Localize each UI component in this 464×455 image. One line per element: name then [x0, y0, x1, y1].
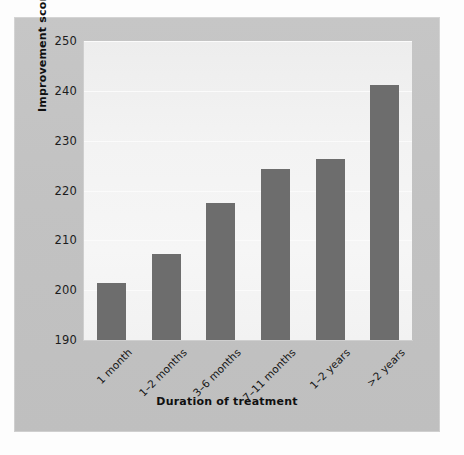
- x-axis-tick-label: >2 years: [364, 346, 407, 389]
- gridline: [84, 191, 412, 192]
- x-axis-title: Duration of treatment: [14, 395, 440, 408]
- gridline: [84, 91, 412, 92]
- gridline: [84, 41, 412, 42]
- bar: [261, 169, 290, 340]
- y-axis-tick-label: 200: [54, 283, 77, 297]
- bar: [316, 159, 345, 340]
- gridline: [84, 141, 412, 142]
- x-axis-tick-label: 3–6 months: [190, 346, 243, 399]
- chart-card: Improvement score 190200210220230240250 …: [14, 17, 440, 432]
- y-axis-tick-label: 210: [54, 233, 77, 247]
- bar: [370, 85, 399, 340]
- bar: [206, 203, 235, 340]
- x-axis-line: [83, 340, 413, 341]
- x-axis-tick-label: 1 month: [94, 346, 134, 386]
- gridline: [84, 240, 412, 241]
- chart-page: Improvement score 190200210220230240250 …: [0, 0, 464, 455]
- y-axis-tick-label: 190: [54, 333, 77, 347]
- x-axis-tick-label: 1–2 years: [307, 346, 352, 391]
- bar: [97, 283, 126, 340]
- bar: [152, 254, 181, 340]
- y-axis-tick-label: 230: [54, 134, 77, 148]
- x-axis-tick-label: 1–2 months: [136, 346, 189, 399]
- y-axis-tick-label: 250: [54, 34, 77, 48]
- gridline: [84, 290, 412, 291]
- y-axis-tick-label: 240: [54, 84, 77, 98]
- plot-area: 190200210220230240250 1 month1–2 months3…: [84, 41, 412, 340]
- y-axis-title: Improvement score: [36, 0, 49, 112]
- y-axis-tick-label: 220: [54, 184, 77, 198]
